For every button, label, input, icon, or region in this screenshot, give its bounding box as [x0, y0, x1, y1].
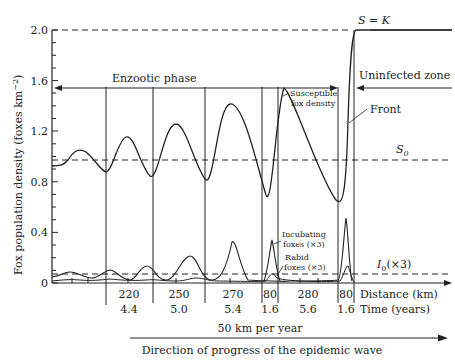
front-label: Front — [370, 103, 402, 116]
segment-time: 1.6 — [261, 303, 279, 316]
segment-time: 1.6 — [337, 303, 355, 316]
y-tick-0: 0 — [41, 277, 48, 290]
segment-distance: 80 — [339, 288, 353, 301]
susceptible-label-line1: Susceptible — [290, 89, 338, 98]
segment-distance: 270 — [223, 288, 244, 301]
segment-time: 4.4 — [120, 303, 138, 316]
segment-distance: 250 — [169, 288, 190, 301]
y-axis-label: Fox population density (foxes km−2) — [11, 75, 25, 275]
segment-distance: 220 — [119, 288, 140, 301]
arrow-right-icon — [438, 335, 448, 342]
segment-distance: 280 — [298, 288, 319, 301]
y-ticks — [52, 30, 58, 283]
rabid-label-line1: Rabid — [285, 253, 309, 262]
s-equals-k-label: S = K — [358, 14, 391, 27]
uninfected-zone-label: Uninfected zone — [359, 69, 450, 82]
epidemic-wave-chart: 0 0.4 0.8 1.2 1.6 2.0 Fox population den… — [0, 0, 455, 362]
y-tick-1.6: 1.6 — [31, 75, 49, 88]
segment-time: 5.6 — [299, 303, 317, 316]
y-tick-0.8: 0.8 — [31, 176, 49, 189]
arrow-left-icon — [54, 85, 62, 91]
distance-axis-label: Distance (km) — [360, 288, 438, 301]
time-labels: 4.4 5.0 5.4 1.6 5.6 1.6 — [120, 303, 355, 316]
segment-distance: 80 — [263, 288, 277, 301]
speed-label: 50 km per year — [218, 322, 304, 335]
direction-label: Direction of progress of the epidemic wa… — [142, 344, 383, 357]
y-tick-labels: 0 0.4 0.8 1.2 1.6 2.0 — [31, 24, 49, 290]
y-tick-0.4: 0.4 — [31, 226, 49, 239]
time-axis-label: Time (years) — [360, 303, 430, 316]
segment-time: 5.4 — [224, 303, 242, 316]
susceptible-label-line2: fox density — [291, 99, 336, 108]
distance-labels: 220 250 270 80 280 80 — [119, 288, 354, 301]
i0-label: I0(×3) — [376, 258, 411, 273]
incubating-label-line2: foxes (×3) — [283, 240, 325, 249]
y-tick-2.0: 2.0 — [31, 24, 49, 37]
x-axis-arrow-icon — [444, 280, 452, 286]
segment-time: 5.0 — [170, 303, 188, 316]
arrow-left-icon — [356, 85, 364, 91]
front-pointer — [349, 109, 367, 123]
incubating-label-line1: Incubating — [282, 230, 326, 239]
enzootic-phase-label: Enzootic phase — [112, 72, 197, 85]
s0-label: S0 — [396, 143, 409, 158]
y-tick-1.2: 1.2 — [31, 125, 49, 138]
rabid-label-line2: foxes (×3) — [284, 263, 326, 272]
